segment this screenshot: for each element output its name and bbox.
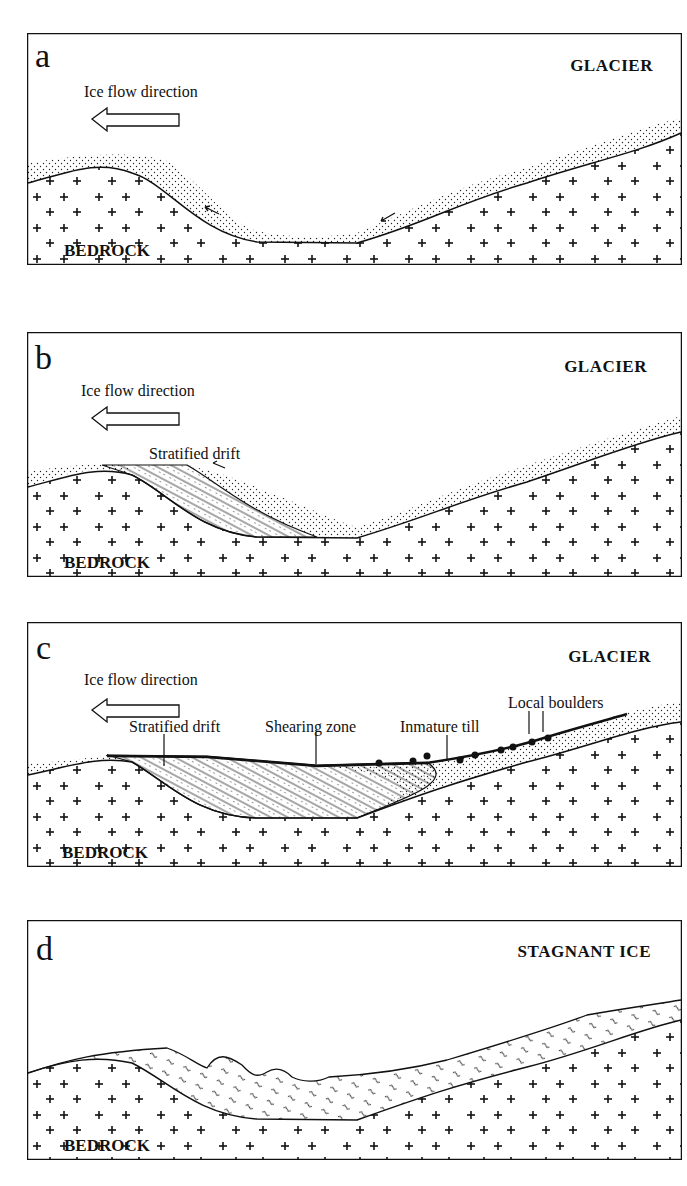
panel-letter: b [35, 339, 52, 376]
panel-letter: d [36, 930, 53, 967]
bedrock-label: BEDROCK [64, 1136, 151, 1155]
panel-title: GLACIER [568, 647, 651, 666]
panel-d: d STAGNANT ICE BEDROCK [27, 920, 682, 1160]
annotation-inmature-till: Inmature till [400, 718, 480, 735]
annotation-local-boulders: Local boulders [508, 694, 604, 711]
panel-title: GLACIER [570, 56, 653, 75]
annotation-shearing-zone: Shearing zone [265, 718, 356, 736]
panel-b: b GLACIER Ice flow direction Stratified … [27, 332, 682, 577]
panel-c: c GLACIER Ice flow direction Stratified … [27, 622, 682, 867]
annotation-stratified-drift: Stratified drift [149, 445, 241, 462]
bedrock-label: BEDROCK [64, 553, 151, 572]
panel-letter: c [36, 629, 51, 666]
flow-arrow-small [213, 461, 225, 468]
ice-flow-label: Ice flow direction [84, 83, 198, 100]
annotation-stratified-drift: Stratified drift [129, 718, 221, 735]
bedrock-label: BEDROCK [64, 241, 151, 260]
panel-title: GLACIER [564, 357, 647, 376]
panel-title: STAGNANT ICE [518, 942, 651, 961]
left-arrow-icon [92, 108, 179, 131]
ice-flow-label: Ice flow direction [81, 382, 195, 399]
panel-a: a GLACIER Ice flow direction BEDROCK [27, 33, 682, 265]
left-arrow-icon [92, 407, 179, 430]
panel-letter: a [35, 37, 50, 74]
ice-flow-label: Ice flow direction [84, 671, 198, 688]
bedrock-label: BEDROCK [62, 843, 149, 862]
